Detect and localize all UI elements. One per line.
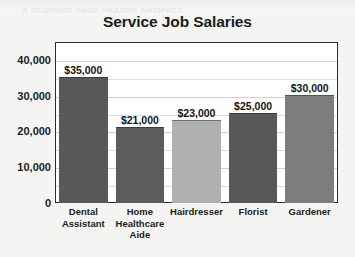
chart-title: Service Job Salaries bbox=[0, 13, 355, 31]
y-axis-tick-label: 0 bbox=[45, 197, 51, 209]
bar bbox=[59, 77, 108, 203]
bar-slot: $21,000 bbox=[112, 42, 169, 203]
bar-value-label: $21,000 bbox=[112, 114, 169, 126]
bar bbox=[285, 95, 334, 203]
bar bbox=[172, 120, 221, 203]
x-axis-category-label: Home Healthcare Aide bbox=[112, 206, 169, 241]
bar-slot: $30,000 bbox=[281, 42, 338, 203]
y-axis-labels: 010,00020,00030,00040,000 bbox=[0, 42, 51, 203]
bar bbox=[229, 113, 278, 203]
y-axis-tick-label: 40,000 bbox=[17, 54, 51, 66]
bar-value-label: $25,000 bbox=[225, 100, 282, 112]
bar-slot: $23,000 bbox=[168, 42, 225, 203]
y-axis-tick-label: 10,000 bbox=[17, 161, 51, 173]
bar-series: $35,000$21,000$23,000$25,000$30,000 bbox=[55, 42, 338, 203]
bar-value-label: $23,000 bbox=[168, 107, 225, 119]
x-axis-labels: Dental AssistantHome Healthcare AideHair… bbox=[55, 206, 338, 254]
x-axis-category-label: Hairdresser bbox=[168, 206, 225, 218]
bar-slot: $25,000 bbox=[225, 42, 282, 203]
x-axis-category-label: Dental Assistant bbox=[55, 206, 112, 229]
bar-slot: $35,000 bbox=[55, 42, 112, 203]
bar-value-label: $30,000 bbox=[281, 82, 338, 94]
chart-figure: A SCANNED PAGE HEADER ARTIFACT Service J… bbox=[0, 0, 355, 257]
x-axis-category-label: Gardener bbox=[281, 206, 338, 218]
bar-value-label: $35,000 bbox=[55, 64, 112, 76]
y-axis-tick-label: 20,000 bbox=[17, 125, 51, 137]
x-axis-category-label: Florist bbox=[225, 206, 282, 218]
y-axis-tick-label: 30,000 bbox=[17, 90, 51, 102]
bar bbox=[116, 127, 165, 203]
